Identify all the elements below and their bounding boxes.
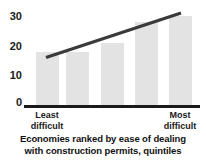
trend-line-segment xyxy=(46,13,181,58)
trend-line xyxy=(0,0,206,112)
chart-caption: Economies ranked by ease of dealing with… xyxy=(0,133,206,157)
chart-figure: 30 20 10 0 Least difficult Most difficul… xyxy=(0,0,206,160)
x-axis-label-least-difficult-line1: Least xyxy=(18,110,76,121)
x-axis-label-least-difficult-line2: difficult xyxy=(18,121,76,132)
x-axis-label-most-difficult-line1: Most xyxy=(151,110,206,121)
chart-caption-line2: with construction permits, quintiles xyxy=(0,145,206,157)
x-axis-label-most-difficult-line2: difficult xyxy=(151,121,206,132)
x-axis-label-most-difficult: Most difficult xyxy=(151,110,206,131)
chart-caption-line1: Economies ranked by ease of dealing xyxy=(0,133,206,145)
plot-area: 30 20 10 0 xyxy=(0,0,206,112)
x-axis-label-least-difficult: Least difficult xyxy=(18,110,76,131)
